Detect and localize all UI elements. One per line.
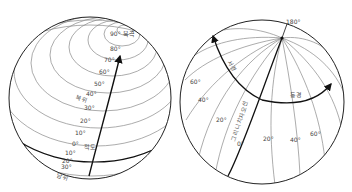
equator-label: 적도 bbox=[84, 143, 96, 151]
lat-tick-0: 0° bbox=[72, 140, 79, 147]
latitude-globe: 90° 북극 80° 70° 60° 50° 40° 북위 30° 20° 10… bbox=[0, 14, 214, 192]
lat-tick-80: 80° bbox=[110, 45, 121, 52]
diagram-canvas: 90° 북극 80° 70° 60° 50° 40° 북위 30° 20° 10… bbox=[0, 0, 352, 192]
lat-tick-70: 70° bbox=[104, 56, 115, 63]
greenwich-meridian bbox=[228, 38, 282, 176]
lat-tick-50: 50° bbox=[94, 80, 105, 87]
lat-tick-30: 30° bbox=[84, 104, 95, 111]
greenwich-label: 그리니치자오선 bbox=[230, 100, 251, 142]
north-pole-label: 90° 북극 bbox=[110, 30, 135, 38]
lat-tick-10: 10° bbox=[75, 129, 86, 136]
lat-tick-s10: 10° bbox=[65, 149, 76, 156]
axis-line bbox=[282, 24, 287, 38]
lon-180-label: 180° bbox=[286, 18, 300, 25]
lon-tick-w40: 40° bbox=[198, 96, 209, 103]
lat-tick-40: 40° bbox=[86, 90, 97, 97]
lon-tick-e20: 20° bbox=[263, 135, 274, 142]
east-longitude-label: 동경 bbox=[290, 91, 302, 98]
lon-tick-0: 0° bbox=[237, 140, 244, 147]
lon-tick-w20: 20° bbox=[216, 116, 227, 123]
meridians bbox=[185, 29, 345, 185]
lon-tick-w60: 60° bbox=[190, 78, 201, 85]
south-latitude-label: 남위 bbox=[55, 171, 69, 183]
lat-tick-20: 20° bbox=[80, 117, 91, 124]
globe-outline bbox=[9, 17, 171, 179]
equator-line bbox=[0, 14, 202, 162]
longitude-globe: 180° 서경 동경 그리니치자오선 60° 40° 20° 0° 20° 40… bbox=[180, 18, 345, 185]
lon-tick-e60: 60° bbox=[310, 130, 321, 137]
lon-tick-e40: 40° bbox=[290, 136, 301, 143]
lat-tick-60: 60° bbox=[99, 68, 110, 75]
lat-tick-s30: 30° bbox=[61, 163, 72, 170]
